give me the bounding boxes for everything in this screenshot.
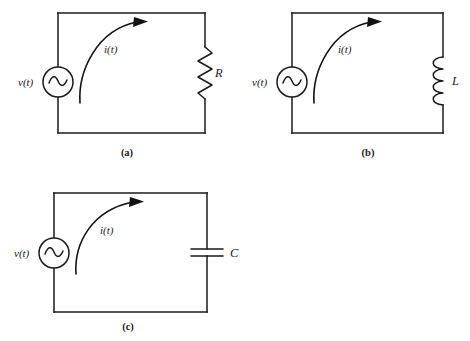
current-arrowhead-c: [129, 197, 144, 207]
component-label-c: C: [230, 246, 239, 260]
caption-c: (c): [122, 321, 134, 333]
current-label-b: i(t): [338, 43, 352, 56]
source-label-a: v(t): [18, 76, 34, 89]
circuit-b: v(t) i(t) L (b): [252, 13, 459, 159]
current-arrowhead-b: [367, 17, 382, 27]
circuit-figure: v(t) i(t) R (a): [0, 0, 470, 341]
inductor-symbol: [433, 57, 443, 105]
component-label-l: L: [451, 74, 459, 88]
current-label-c: i(t): [100, 224, 114, 237]
source-label-c: v(t): [14, 247, 30, 260]
current-arrow-b: [314, 22, 371, 103]
caption-a: (a): [121, 147, 134, 159]
circuit-diagram-canvas: v(t) i(t) R (a): [0, 0, 470, 341]
resistor-symbol: [198, 47, 212, 99]
source-label-b: v(t): [252, 76, 268, 89]
current-arrow-a: [80, 22, 137, 103]
component-label-r: R: [214, 66, 223, 80]
circuit-a: v(t) i(t) R (a): [18, 13, 223, 159]
current-label-a: i(t): [104, 43, 118, 56]
current-arrowhead-a: [133, 17, 148, 27]
caption-b: (b): [362, 147, 375, 159]
circuit-c: v(t) i(t) C (c): [14, 193, 239, 333]
current-arrow-c: [76, 202, 133, 274]
